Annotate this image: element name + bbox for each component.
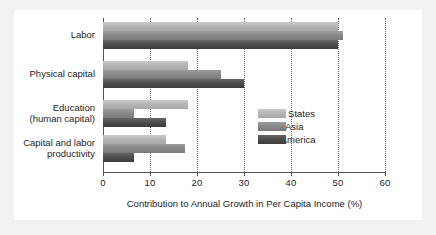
category-label: Capital and labor productivity bbox=[23, 137, 95, 159]
bar-chart: 0102030405060 LaborPhysical capitalEduca… bbox=[0, 0, 436, 235]
x-tick bbox=[291, 172, 292, 176]
category-label: Physical capital bbox=[30, 68, 95, 79]
bar bbox=[103, 31, 343, 40]
x-tick-label: 30 bbox=[224, 177, 264, 188]
x-tick-label: 60 bbox=[365, 177, 405, 188]
x-tick-label: 20 bbox=[177, 177, 217, 188]
bar bbox=[103, 118, 166, 127]
bar bbox=[103, 153, 134, 162]
bar bbox=[103, 135, 166, 144]
x-tick-label: 10 bbox=[130, 177, 170, 188]
bar bbox=[103, 144, 185, 153]
bar bbox=[103, 40, 338, 49]
legend-swatch bbox=[258, 109, 286, 118]
bar bbox=[103, 70, 221, 79]
legend-item: United States bbox=[258, 107, 316, 120]
x-tick bbox=[150, 172, 151, 176]
bar bbox=[103, 100, 188, 109]
chart-screenshot: 0102030405060 LaborPhysical capitalEduca… bbox=[0, 0, 436, 235]
legend-item: Latin America bbox=[258, 133, 316, 146]
x-tick bbox=[244, 172, 245, 176]
bar bbox=[103, 22, 338, 31]
x-tick bbox=[103, 172, 104, 176]
gridline bbox=[385, 18, 386, 172]
x-tick-label: 40 bbox=[271, 177, 311, 188]
x-tick-label: 50 bbox=[318, 177, 358, 188]
x-tick bbox=[197, 172, 198, 176]
legend-swatch bbox=[258, 135, 286, 144]
bar bbox=[103, 61, 188, 70]
chart-legend: United StatesSouth AsiaLatin America bbox=[258, 107, 316, 146]
x-tick-label: 0 bbox=[83, 177, 123, 188]
bar bbox=[103, 79, 244, 88]
x-tick bbox=[385, 172, 386, 176]
legend-item: South Asia bbox=[258, 120, 316, 133]
category-label: Education (human capital) bbox=[30, 102, 95, 124]
category-label: Labor bbox=[71, 29, 95, 40]
x-tick bbox=[338, 172, 339, 176]
bar bbox=[103, 109, 134, 118]
x-axis-title: Contribution to Annual Growth in Per Cap… bbox=[103, 198, 386, 209]
legend-swatch bbox=[258, 122, 286, 131]
gridline bbox=[338, 18, 339, 172]
